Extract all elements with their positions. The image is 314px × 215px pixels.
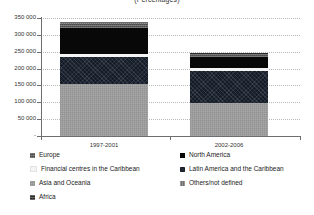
bar-segment-latam: [60, 57, 148, 84]
bar-segment-africa: [60, 22, 148, 23]
y-axis-tick-label: 150 000: [0, 81, 36, 87]
y-axis-tick-label: 200 000: [0, 65, 36, 71]
legend-item-africa[interactable]: Africa: [30, 194, 56, 201]
legend-swatch-namerica: [180, 153, 185, 158]
x-axis-tick-label: 1997-2001: [64, 142, 144, 148]
y-axis-tick-label: 250 000: [0, 48, 36, 54]
legend-label: Asia and Oceania: [39, 180, 90, 187]
chart-title: (Percentages): [0, 0, 314, 3]
legend-label: Latin America and the Caribbean: [189, 166, 284, 173]
bar-segment-fincar: [60, 54, 148, 57]
legend-label: North America: [189, 152, 230, 159]
bar-2002-2006: [190, 18, 268, 136]
x-axis-line: [41, 136, 301, 137]
x-axis-tick: [300, 136, 301, 140]
chart-root: (Percentages) -50 000100 000150 000200 0…: [0, 0, 314, 215]
plot-area: [41, 18, 300, 136]
legend-swatch-europe: [30, 153, 35, 158]
legend-swatch-africa: [30, 195, 35, 200]
bar-segment-europe: [60, 24, 148, 28]
bar-segment-latam: [190, 71, 268, 104]
y-axis-tick-label: 350 000: [0, 14, 36, 20]
legend-swatch-asia: [30, 181, 35, 186]
x-axis-tick: [41, 136, 42, 140]
legend-item-europe[interactable]: Europe: [30, 152, 60, 159]
legend-swatch-others: [180, 181, 185, 186]
legend-label: Africa: [39, 194, 56, 201]
y-axis-tick-label: 100 000: [0, 98, 36, 104]
bar-segment-others: [60, 23, 148, 24]
bar-1997-2001: [60, 18, 148, 136]
y-axis-tick-label: 50 000: [0, 115, 36, 121]
bar-segment-namerica: [190, 57, 268, 68]
bar-segment-europe: [190, 54, 268, 57]
legend-label: Others/not defined: [189, 180, 242, 187]
x-axis-tick: [170, 136, 171, 140]
legend-swatch-fincar: [30, 166, 37, 172]
legend-item-asia[interactable]: Asia and Oceania: [30, 180, 90, 187]
bar-segment-others: [190, 53, 268, 54]
y-axis-tick-label: -: [0, 132, 36, 138]
bar-segment-asia: [190, 103, 268, 136]
y-axis-tick-label: 300 000: [0, 31, 36, 37]
legend-item-latam[interactable]: Latin America and the Caribbean: [180, 166, 284, 173]
bar-segment-namerica: [60, 28, 148, 55]
legend-item-others[interactable]: Others/not defined: [180, 180, 242, 187]
legend-item-namerica[interactable]: North America: [180, 152, 230, 159]
bar-segment-asia: [60, 84, 148, 136]
x-axis-tick-label: 2002-2006: [189, 142, 269, 148]
legend-swatch-latam: [180, 167, 185, 172]
legend-label: Financial centres in the Caribbean: [41, 166, 140, 173]
legend-label: Europe: [39, 152, 60, 159]
bar-segment-fincar: [190, 68, 268, 71]
chart-legend: EuropeNorth AmericaFinancial centres in …: [0, 152, 314, 214]
legend-item-fincar[interactable]: Financial centres in the Caribbean: [30, 166, 140, 173]
